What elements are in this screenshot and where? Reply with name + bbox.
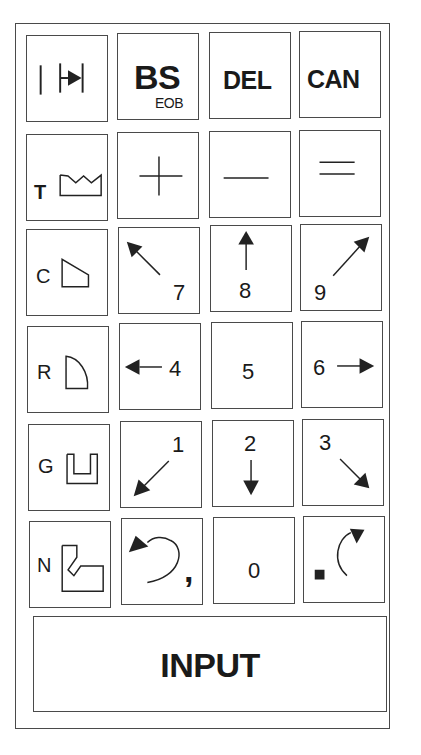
insert-block-key[interactable] bbox=[26, 35, 108, 122]
key-9[interactable]: 9 bbox=[300, 224, 382, 311]
crown-tool-icon bbox=[27, 135, 107, 220]
key-5[interactable]: 5 bbox=[211, 322, 293, 409]
key-2[interactable]: 2 bbox=[212, 420, 294, 507]
digit-5: 5 bbox=[242, 359, 254, 385]
digit-4: 4 bbox=[169, 356, 181, 382]
digit-7: 7 bbox=[173, 280, 185, 306]
plus-icon bbox=[118, 133, 198, 218]
tool-key[interactable]: T bbox=[26, 134, 108, 221]
equals-icon bbox=[300, 131, 380, 216]
plus-key[interactable] bbox=[117, 132, 199, 219]
backspace-eob-key[interactable]: BS EOB bbox=[117, 33, 199, 120]
key-8[interactable]: 8 bbox=[210, 225, 292, 312]
minus-icon bbox=[210, 132, 290, 217]
equals-key[interactable] bbox=[299, 130, 381, 217]
chamfer-key[interactable]: C bbox=[26, 229, 108, 316]
del-label: DEL bbox=[223, 66, 272, 95]
cancel-key[interactable]: CAN bbox=[299, 31, 381, 118]
key-4[interactable]: 4 bbox=[119, 323, 201, 410]
groove-shape-icon bbox=[29, 425, 109, 510]
digit-6: 6 bbox=[313, 355, 325, 381]
notch-shape-icon bbox=[30, 522, 110, 607]
key-0[interactable]: 0 bbox=[213, 517, 295, 604]
groove-key[interactable]: G bbox=[28, 424, 110, 511]
key-point[interactable] bbox=[303, 516, 385, 603]
comma-glyph: , bbox=[184, 551, 193, 590]
input-label: INPUT bbox=[34, 646, 386, 685]
digit-1: 1 bbox=[172, 432, 184, 458]
arrow-down-icon bbox=[213, 421, 293, 506]
radius-shape-icon bbox=[28, 327, 108, 412]
input-button[interactable]: INPUT bbox=[33, 616, 387, 712]
key-1[interactable]: 1 bbox=[120, 421, 202, 508]
chamfer-shape-icon bbox=[27, 230, 107, 315]
arrow-up-right-icon bbox=[301, 225, 381, 310]
digit-9: 9 bbox=[314, 280, 326, 306]
notch-key[interactable]: N bbox=[29, 521, 111, 608]
digit-0: 0 bbox=[248, 558, 260, 584]
can-label: CAN bbox=[307, 65, 360, 94]
arrow-left-icon bbox=[120, 324, 200, 409]
arc-cw-arrow-icon bbox=[304, 517, 384, 602]
key-3[interactable]: 3 bbox=[302, 419, 384, 506]
digit-8: 8 bbox=[239, 278, 251, 304]
arrow-down-left-icon bbox=[121, 422, 201, 507]
key-6[interactable]: 6 bbox=[301, 321, 383, 408]
key-comma[interactable]: , bbox=[121, 518, 203, 605]
insert-block-icon bbox=[27, 36, 107, 121]
eob-label: EOB bbox=[155, 95, 183, 111]
bs-label: BS bbox=[134, 58, 180, 97]
point-glyph bbox=[315, 570, 325, 580]
key-7[interactable]: 7 bbox=[118, 227, 200, 314]
arrow-down-right-icon bbox=[303, 420, 383, 505]
radius-key[interactable]: R bbox=[27, 326, 109, 413]
arrow-up-left-icon bbox=[119, 228, 199, 313]
minus-key[interactable] bbox=[209, 131, 291, 218]
delete-key[interactable]: DEL bbox=[209, 32, 291, 119]
